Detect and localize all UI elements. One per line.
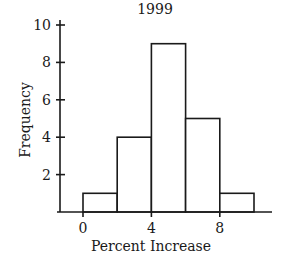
x-tick-label: 4 [147,220,156,236]
x-axis-label: Percent Increase [91,238,211,254]
y-axis-label: Frequency [17,82,33,158]
histogram-bar [186,119,220,213]
histogram-chart: 1999 246810 048 Percent Increase Frequen… [0,0,287,272]
histogram-bar [83,193,117,212]
x-tick-label: 0 [79,220,88,236]
histogram-bar [220,193,254,212]
chart-title: 1999 [137,1,173,17]
y-tick-label: 4 [42,129,51,145]
y-tick-label: 6 [42,92,51,108]
histogram-bar [117,137,151,212]
x-ticks: 048 [79,212,225,236]
histogram-bar [151,44,185,212]
y-tick-label: 10 [33,17,51,33]
bars-group [83,44,254,212]
y-tick-label: 8 [42,54,51,70]
y-tick-label: 2 [42,167,51,183]
x-tick-label: 8 [215,220,224,236]
